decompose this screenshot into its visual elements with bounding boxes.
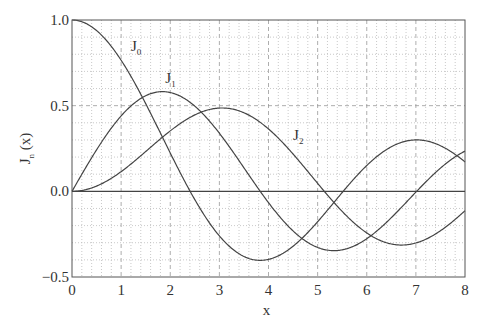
y-tick-label: 1.0 — [50, 12, 69, 28]
x-axis-label: x — [263, 302, 271, 318]
labels: 012345678−0.50.00.51.0xJn (x)J0J1J2 — [17, 12, 469, 318]
y-tick-label: −0.5 — [42, 269, 69, 285]
curve-label-J2: J2 — [293, 127, 303, 146]
y-tick-label: 0.5 — [50, 98, 69, 114]
curve-label-J1: J1 — [165, 70, 175, 89]
x-tick-label: 1 — [117, 282, 125, 298]
grid — [72, 20, 465, 277]
bessel-chart: 012345678−0.50.00.51.0xJn (x)J0J1J2 — [0, 0, 490, 333]
x-tick-label: 6 — [363, 282, 371, 298]
x-tick-label: 5 — [314, 282, 322, 298]
x-tick-label: 3 — [216, 282, 224, 298]
x-tick-label: 4 — [265, 282, 273, 298]
x-tick-label: 7 — [412, 282, 420, 298]
x-tick-label: 2 — [167, 282, 175, 298]
y-tick-label: 0.0 — [50, 183, 69, 199]
x-tick-label: 8 — [461, 282, 469, 298]
x-tick-label: 0 — [68, 282, 76, 298]
y-axis-label: Jn (x) — [17, 133, 36, 165]
